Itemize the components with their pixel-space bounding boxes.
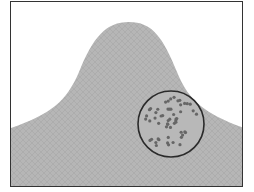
particle-dot [166,122,169,125]
particle-dot [168,118,171,121]
particle-dot [179,110,182,113]
particle-dot [179,103,182,106]
particle-dot [154,111,157,114]
particle-dot [165,125,168,128]
particle-dot [155,144,158,147]
particle-dot [153,116,156,119]
particle-dot [145,114,148,117]
particle-dot [154,141,157,144]
particle-dot [172,96,175,99]
particle-dot [149,107,152,110]
gaussian-surface [11,22,243,187]
particle-dot [160,114,163,117]
particle-dot [156,108,159,111]
particle-dot [148,139,151,142]
particle-dot [168,108,171,111]
particle-dot [169,97,172,100]
particle-dot [178,143,181,146]
particle-dot [172,113,175,116]
particle-dot [157,122,160,125]
particle-dot [176,99,179,102]
particle-dot [157,137,160,140]
particle-dot [167,143,170,146]
particle-dot [174,121,177,124]
particle-dot [180,131,183,134]
diagram-frame [10,1,243,187]
particle-dot [181,133,184,136]
particle-dot [148,119,151,122]
magnifier-circle [138,91,204,157]
particle-dot [171,141,174,144]
particle-dot [169,126,172,129]
particle-dot [195,113,198,116]
particle-dot [183,130,186,133]
particle-dot [186,102,189,105]
particle-dot [189,103,192,106]
particle-dot [192,109,195,112]
particle-dot [144,117,147,120]
surface-diagram [11,2,243,187]
particle-dot [164,101,167,104]
particle-dot [167,136,170,139]
